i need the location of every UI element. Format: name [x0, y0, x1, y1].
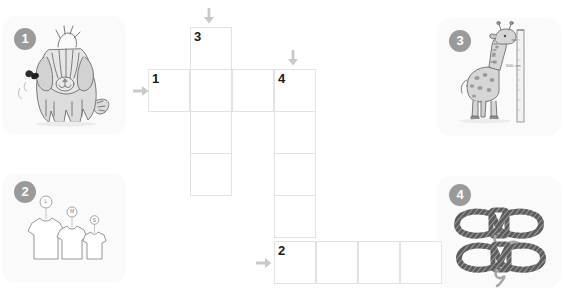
crossword-page: 1 L M S 2 [0, 0, 563, 296]
rope-lower [459, 244, 543, 286]
grid-cell-1-start[interactable]: 1 [148, 69, 190, 112]
grid-cell-1-c[interactable] [232, 69, 274, 112]
grid-cell-number-2: 2 [278, 243, 285, 258]
clue-badge-4: 4 [449, 184, 471, 206]
grid-cell-3-r3[interactable] [190, 153, 232, 196]
grid-cell-number-1: 1 [152, 71, 159, 86]
clue-panel-2[interactable]: L M S 2 [2, 173, 126, 283]
grid-cell-number-3: 3 [194, 29, 201, 44]
grid-cell-3-start[interactable]: 3 [190, 27, 232, 70]
grid-cell-2-c[interactable] [358, 241, 400, 284]
grid-cell-4-r3[interactable] [274, 153, 316, 196]
clue-badge-2: 2 [14, 181, 36, 203]
ruler-icon [517, 30, 524, 122]
tshirt-size-label-s: S [91, 217, 99, 223]
arrow-right-icon-1 [133, 84, 149, 98]
arrow-down-icon-4 [286, 50, 300, 66]
clue-panel-1[interactable]: 1 [2, 16, 126, 134]
grid-cell-4-r4[interactable] [274, 195, 316, 238]
grid-cell-2-d[interactable] [400, 241, 442, 284]
clue-badge-3: 3 [449, 30, 471, 52]
clue-panel-3[interactable]: 500 cm 3 [437, 18, 561, 136]
grid-cell-number-4: 4 [278, 71, 285, 86]
tshirt-size-label-l: L [42, 198, 50, 204]
giraffe-height-label: 500 cm [506, 63, 521, 68]
clue-panel-4[interactable]: 4 [437, 176, 561, 288]
grid-cell-3-r2[interactable] [190, 111, 232, 154]
tshirt-size-label-m: M [68, 208, 76, 214]
arrow-right-icon-2 [256, 256, 272, 270]
grid-cell-2-start[interactable]: 2 [274, 241, 316, 284]
grid-cell-4-start[interactable]: 4 [274, 69, 316, 112]
clue-badge-1: 1 [14, 28, 36, 50]
grid-cell-1-b[interactable] [190, 69, 232, 112]
grid-cell-2-b[interactable] [316, 241, 358, 284]
arrow-down-icon-3 [202, 8, 216, 24]
grid-cell-4-r2[interactable] [274, 111, 316, 154]
